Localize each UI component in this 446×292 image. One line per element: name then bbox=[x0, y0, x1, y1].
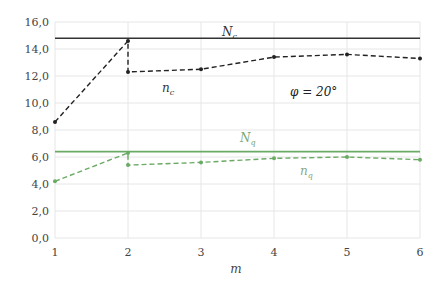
x-tick-label: 6 bbox=[417, 246, 424, 259]
y-axis-ticks: 0,02,04,06,08,010,012,014,016,0 bbox=[25, 16, 50, 245]
y-tick-label: 6,0 bbox=[32, 151, 50, 164]
data-point bbox=[418, 56, 422, 60]
y-tick-label: 8,0 bbox=[32, 124, 50, 137]
data-point bbox=[53, 179, 57, 183]
label-Nq: Nq bbox=[239, 131, 256, 147]
data-point bbox=[126, 70, 130, 74]
data-point bbox=[345, 155, 349, 159]
x-tick-label: 5 bbox=[344, 246, 351, 259]
grid bbox=[55, 22, 420, 238]
series-n_c bbox=[55, 41, 420, 122]
chart: 0,02,04,06,08,010,012,014,016,0 123456 m… bbox=[0, 0, 446, 292]
x-tick-label: 2 bbox=[125, 246, 132, 259]
x-axis-ticks: 123456 bbox=[52, 246, 424, 259]
data-point bbox=[53, 120, 57, 124]
data-point bbox=[199, 160, 203, 164]
data-point bbox=[272, 156, 276, 160]
data-point bbox=[199, 67, 203, 71]
label-Nc: Nc bbox=[221, 25, 238, 41]
y-tick-label: 0,0 bbox=[32, 232, 50, 245]
data-point bbox=[126, 163, 130, 167]
data-point bbox=[126, 151, 130, 155]
y-tick-label: 2,0 bbox=[32, 205, 50, 218]
y-tick-label: 14,0 bbox=[25, 43, 50, 56]
phi-annotation: φ = 20° bbox=[290, 85, 337, 99]
series-lines bbox=[53, 38, 422, 183]
y-tick-label: 4,0 bbox=[32, 178, 50, 191]
label-nq: nq bbox=[300, 164, 313, 180]
data-point bbox=[272, 55, 276, 59]
x-tick-label: 4 bbox=[271, 246, 278, 259]
x-tick-label: 1 bbox=[52, 246, 59, 259]
y-tick-label: 10,0 bbox=[25, 97, 50, 110]
label-nc: nc bbox=[162, 81, 175, 97]
data-point bbox=[126, 39, 130, 43]
y-tick-label: 16,0 bbox=[25, 16, 50, 29]
x-axis-label: m bbox=[230, 262, 241, 276]
data-point bbox=[345, 52, 349, 56]
y-tick-label: 12,0 bbox=[25, 70, 50, 83]
x-tick-label: 3 bbox=[198, 246, 205, 259]
data-point bbox=[418, 158, 422, 162]
